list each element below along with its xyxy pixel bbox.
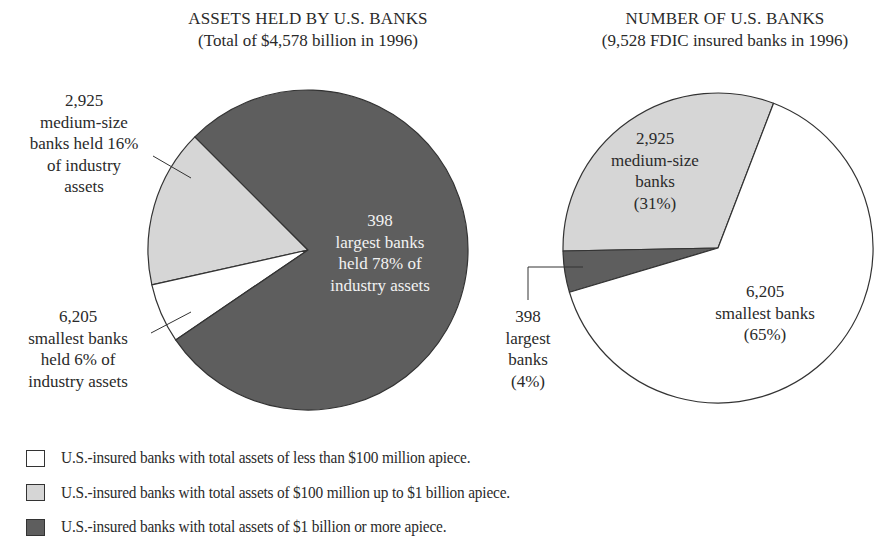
legend-swatch-dark-gray-icon xyxy=(26,519,45,536)
label-left-medium: 2,925 medium-size banks held 16% of indu… xyxy=(0,90,168,198)
label-line: held 78% of xyxy=(310,253,450,275)
label-line: smallest banks xyxy=(690,303,840,325)
label-line: largest xyxy=(498,328,558,350)
label-right-large: 398 largest banks (4%) xyxy=(498,306,558,392)
label-line: industry assets xyxy=(8,371,148,393)
label-line: industry assets xyxy=(310,275,450,297)
label-line: 2,925 xyxy=(595,128,715,150)
label-left-small: 6,205 smallest banks held 6% of industry… xyxy=(8,306,148,392)
label-line: assets xyxy=(0,176,168,198)
label-line: (4%) xyxy=(498,371,558,393)
legend-item-large: U.S.-insured banks with total assets of … xyxy=(26,510,544,545)
label-line: 6,205 xyxy=(8,306,148,328)
label-right-small: 6,205 smallest banks (65%) xyxy=(690,281,840,346)
label-line: 398 xyxy=(498,306,558,328)
label-line: banks xyxy=(595,171,715,193)
legend-swatch-white-icon xyxy=(26,450,45,467)
label-line: banks held 16% xyxy=(0,133,168,155)
label-line: held 6% of xyxy=(8,349,148,371)
label-line: (31%) xyxy=(595,193,715,215)
legend-swatch-light-gray-icon xyxy=(26,484,45,501)
label-line: 2,925 xyxy=(0,90,168,112)
legend-text: U.S.-insured banks with total assets of … xyxy=(61,483,510,503)
legend-item-medium: U.S.-insured banks with total assets of … xyxy=(26,476,544,511)
label-right-medium: 2,925 medium-size banks (31%) xyxy=(595,128,715,214)
label-line: medium-size xyxy=(595,150,715,172)
label-line: 6,205 xyxy=(690,281,840,303)
label-left-large: 398 largest banks held 78% of industry a… xyxy=(310,210,450,296)
label-line: largest banks xyxy=(310,232,450,254)
label-line: (65%) xyxy=(690,324,840,346)
legend-text: U.S.-insured banks with total assets of … xyxy=(61,517,446,537)
label-line: 398 xyxy=(310,210,450,232)
legend: U.S.-insured banks with total assets of … xyxy=(26,441,544,545)
label-line: smallest banks xyxy=(8,328,148,350)
label-line: of industry xyxy=(0,155,168,177)
label-line: banks xyxy=(498,349,558,371)
legend-item-small: U.S.-insured banks with total assets of … xyxy=(26,441,544,476)
legend-text: U.S.-insured banks with total assets of … xyxy=(61,448,470,468)
label-line: medium-size xyxy=(0,112,168,134)
